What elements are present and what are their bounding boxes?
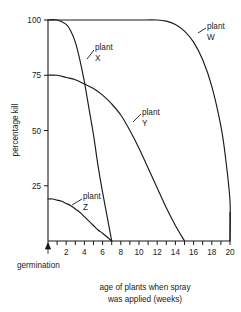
y-tick-marks bbox=[44, 20, 48, 186]
series-label-plant-w-line1: plant bbox=[207, 22, 225, 31]
series-label-plant-y-line1: plant bbox=[142, 108, 160, 117]
x-tick-label-2: 2 bbox=[64, 248, 69, 257]
x-axis-title-line1: age of plants when spray bbox=[99, 283, 191, 292]
series-label-plant-x-line1: plant bbox=[95, 43, 113, 52]
germination-arrow-icon bbox=[45, 243, 50, 254]
curve-plant-w bbox=[48, 20, 230, 241]
series-label-plant-x-line2: X bbox=[95, 54, 101, 63]
x-tick-marks bbox=[48, 241, 230, 245]
y-axis-title: percentage kill bbox=[11, 103, 20, 156]
leader-line-plant-y bbox=[133, 114, 141, 122]
series-label-plant-z-line1: plant bbox=[83, 192, 101, 201]
x-tick-label-18: 18 bbox=[207, 248, 217, 257]
x-tick-label-12: 12 bbox=[153, 248, 163, 257]
x-tick-label-8: 8 bbox=[119, 248, 124, 257]
percentage-kill-chart: 100 75 50 25 2468101214161820 germinatio… bbox=[0, 0, 241, 312]
x-tick-label-10: 10 bbox=[134, 248, 144, 257]
x-tick-labels: 2468101214161820 bbox=[64, 248, 235, 257]
y-tick-label-25: 25 bbox=[32, 182, 42, 191]
curve-plant-z bbox=[48, 199, 112, 241]
series-label-plant-w-line2: W bbox=[207, 33, 215, 42]
y-tick-label-100: 100 bbox=[27, 16, 41, 25]
x-tick-label-6: 6 bbox=[100, 248, 105, 257]
leader-line-plant-x bbox=[87, 50, 94, 59]
leader-line-plant-z bbox=[72, 199, 82, 205]
x-tick-label-4: 4 bbox=[82, 248, 87, 257]
x-tick-label-14: 14 bbox=[171, 248, 181, 257]
curve-plant-y bbox=[48, 75, 185, 241]
x-axis-title-line2: was applied (weeks) bbox=[107, 295, 182, 304]
y-tick-label-50: 50 bbox=[32, 127, 42, 136]
y-tick-label-75: 75 bbox=[32, 71, 42, 80]
chart-container: 100 75 50 25 2468101214161820 germinatio… bbox=[0, 0, 241, 312]
curve-plant-x bbox=[48, 20, 112, 241]
series-label-plant-z-line2: Z bbox=[83, 203, 88, 212]
series-label-plant-y-line2: Y bbox=[142, 119, 148, 128]
x-tick-label-16: 16 bbox=[189, 248, 199, 257]
leader-line-plant-w bbox=[198, 28, 206, 33]
germination-label: germination bbox=[17, 261, 60, 270]
x-tick-label-20: 20 bbox=[225, 248, 235, 257]
